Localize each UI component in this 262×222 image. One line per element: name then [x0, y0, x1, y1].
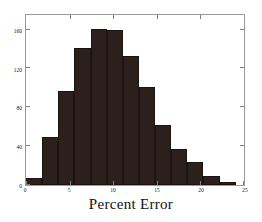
bar-bin-8	[139, 87, 155, 185]
y-axis-tick-right	[240, 106, 244, 107]
x-tick-label-5: 5	[60, 187, 78, 194]
histogram-figure: 0 40 80 120 160 0 5 10 15 20 25	[0, 0, 262, 222]
bar-bin-13	[220, 182, 236, 185]
y-tick-label-40: 40	[2, 144, 22, 150]
bar-bin-9	[155, 125, 171, 185]
x-tick-label-10: 10	[104, 187, 122, 194]
y-tick-label-120: 120	[2, 67, 22, 73]
y-axis-tick	[26, 29, 30, 30]
y-axis-tick-right	[240, 145, 244, 146]
x-axis-tick-top	[113, 15, 114, 19]
x-axis-tick-top	[157, 15, 158, 19]
x-axis-tick-top	[200, 15, 201, 19]
plot-frame	[25, 14, 245, 186]
bar-bin-3	[58, 91, 74, 185]
y-axis-tick-right	[240, 29, 244, 30]
y-tick-label-80: 80	[2, 105, 22, 111]
x-tick-label-20: 20	[192, 187, 210, 194]
y-tick-label-160: 160	[2, 28, 22, 34]
bar-bin-12	[203, 176, 219, 185]
bar-bin-5	[91, 29, 107, 185]
x-axis-label: Percent Error	[0, 196, 262, 213]
x-tick-label-0: 0	[16, 187, 34, 194]
x-axis-tick	[113, 181, 114, 185]
bar-bin-2	[42, 137, 58, 185]
x-tick-label-15: 15	[148, 187, 166, 194]
y-axis-tick	[26, 184, 30, 185]
bar-bin-6	[107, 30, 123, 185]
x-axis-tick	[243, 181, 244, 185]
x-axis-tick-top	[70, 15, 71, 19]
y-axis-tick	[26, 67, 30, 68]
x-axis-tick	[157, 181, 158, 185]
y-axis-tick	[26, 106, 30, 107]
x-axis-tick	[70, 181, 71, 185]
x-axis-tick	[200, 181, 201, 185]
bar-bin-4	[74, 48, 90, 185]
bar-bin-10	[171, 149, 187, 185]
plot-area	[26, 15, 244, 185]
x-tick-label-25: 25	[236, 187, 254, 194]
y-axis-tick	[26, 145, 30, 146]
bar-bin-7	[123, 56, 139, 185]
y-axis-tick-right	[240, 67, 244, 68]
